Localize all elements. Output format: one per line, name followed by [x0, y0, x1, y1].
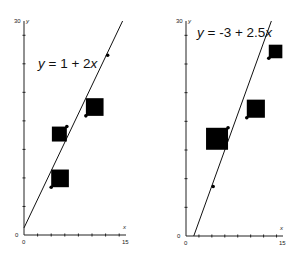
y-axis-label: y: [25, 18, 30, 24]
x-tick-label: 15: [279, 240, 286, 246]
equation-label: y = -3 + 2.5x: [196, 25, 273, 40]
y-tick-label: 0: [15, 232, 19, 238]
data-point: [84, 114, 88, 118]
y-tick-label: 30: [14, 18, 21, 24]
influence-square: [86, 98, 104, 116]
y-tick-label: 0: [177, 233, 181, 239]
data-point: [245, 116, 249, 120]
y-tick-label: 30: [176, 18, 183, 24]
eq-body: = 1 + 2: [45, 56, 91, 71]
equation-label: y = 1 + 2x: [37, 56, 99, 71]
chart-panel-2: 015030xyy = -3 + 2.5x: [176, 18, 286, 246]
x-axis-label: x: [279, 225, 284, 231]
regression-line: [194, 21, 272, 236]
x-axis-label: x: [122, 224, 127, 230]
data-point: [65, 125, 69, 129]
y-axis-label: y: [187, 18, 192, 24]
influence-square: [52, 127, 67, 142]
chart-panel-1: 015030xyy = 1 + 2x: [14, 18, 129, 245]
influence-square: [206, 128, 228, 150]
influence-square: [269, 45, 283, 59]
x-tick-label: 0: [22, 239, 26, 245]
data-point: [106, 53, 110, 57]
data-point: [267, 56, 271, 60]
influence-square: [247, 100, 265, 118]
eq-x: x: [264, 25, 273, 40]
data-point: [49, 185, 53, 189]
data-point: [211, 185, 215, 189]
eq-body: = -3 + 2.5: [204, 25, 266, 40]
eq-x: x: [90, 56, 99, 71]
data-point: [226, 126, 230, 130]
influence-square: [51, 170, 69, 188]
chart-canvas: 015030xyy = 1 + 2x015030xyy = -3 + 2.5x: [0, 0, 307, 256]
regression-line: [24, 21, 123, 228]
x-tick-label: 15: [122, 239, 129, 245]
x-tick-label: 0: [184, 240, 188, 246]
